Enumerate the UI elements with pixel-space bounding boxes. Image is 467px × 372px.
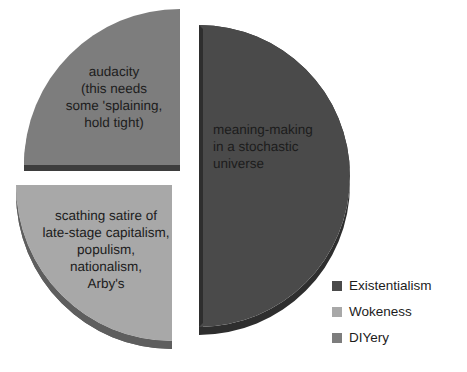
pie-chart: audacity (this needs some 'splaining, ho… — [0, 0, 467, 372]
pie-slice-existentialism[interactable] — [199, 25, 350, 335]
legend-item-existentialism[interactable]: Existentialism — [332, 279, 432, 292]
pie-slice-diyery[interactable] — [24, 9, 180, 171]
legend-swatch-icon-existentialism — [332, 281, 342, 291]
legend-label-diyery: DIYery — [349, 331, 389, 344]
legend-item-diyery[interactable]: DIYery — [332, 331, 432, 344]
legend-label-existentialism: Existentialism — [349, 279, 432, 292]
legend-label-wokeness: Wokeness — [349, 305, 412, 318]
pie-slice-existentialism-inner-edge — [199, 25, 203, 327]
legend-swatch-icon-wokeness — [332, 307, 342, 317]
legend-swatch-icon-diyery — [332, 333, 342, 343]
pie-slice-existentialism-face — [199, 25, 350, 327]
legend: Existentialism Wokeness DIYery — [332, 279, 432, 344]
legend-item-wokeness[interactable]: Wokeness — [332, 305, 432, 318]
pie-slice-diyery-face — [24, 9, 180, 165]
pie-slice-wokeness-face — [16, 185, 172, 341]
pie-slice-wokeness[interactable] — [16, 185, 172, 349]
